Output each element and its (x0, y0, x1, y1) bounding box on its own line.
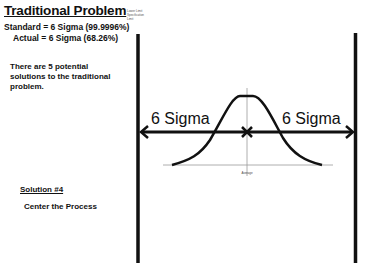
left-sigma-label: 6 Sigma (151, 110, 210, 127)
sigma-diagram: Average 6 Sigma 6 Sigma (0, 0, 370, 279)
right-sigma-label: 6 Sigma (282, 110, 341, 127)
average-label: Average (241, 171, 252, 175)
